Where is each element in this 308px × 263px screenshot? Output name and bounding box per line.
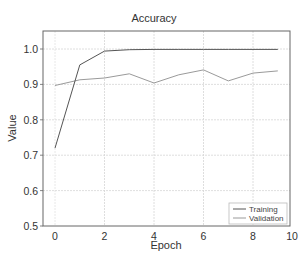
y-tick-label: 0.5 xyxy=(23,220,38,232)
x-tick-label: 0 xyxy=(52,230,58,242)
legend-training-label: Training xyxy=(249,205,278,214)
x-axis-label: Epoch xyxy=(150,239,181,251)
y-tick-label: 0.6 xyxy=(23,185,38,197)
accuracy-chart: Accuracy 0.50.60.70.80.91.0 0246810 Epoc… xyxy=(0,0,308,263)
x-tick-label: 8 xyxy=(250,230,256,242)
y-tick-label: 0.9 xyxy=(23,78,38,90)
series-line-training xyxy=(55,49,278,148)
y-tick-label: 0.7 xyxy=(23,149,38,161)
x-tick-label: 6 xyxy=(201,230,207,242)
grid-lines xyxy=(43,31,290,226)
x-tick-label: 2 xyxy=(102,230,108,242)
y-tick-label: 0.8 xyxy=(23,114,38,126)
y-tick-label: 1.0 xyxy=(23,43,38,55)
data-lines xyxy=(55,49,278,148)
legend-validation-label: Validation xyxy=(249,214,284,223)
chart-title: Accuracy xyxy=(131,12,177,24)
y-axis-label: Value xyxy=(6,114,18,141)
legend: Training Validation xyxy=(229,203,287,224)
series-line-validation xyxy=(55,70,278,86)
x-tick-label: 10 xyxy=(286,230,298,242)
y-axis-ticks: 0.50.60.70.80.91.0 xyxy=(23,43,43,232)
